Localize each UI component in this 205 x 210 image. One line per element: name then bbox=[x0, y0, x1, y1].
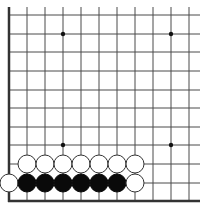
white-stone[interactable] bbox=[108, 155, 126, 173]
white-stone[interactable] bbox=[90, 155, 108, 173]
white-stone[interactable] bbox=[126, 174, 144, 192]
white-stone[interactable] bbox=[126, 155, 144, 173]
stones[interactable] bbox=[0, 155, 144, 192]
white-stone[interactable] bbox=[36, 155, 54, 173]
white-stone[interactable] bbox=[18, 155, 36, 173]
grid-lines bbox=[8, 7, 200, 202]
black-stone[interactable] bbox=[108, 174, 126, 192]
black-stone[interactable] bbox=[72, 174, 90, 192]
black-stone[interactable] bbox=[90, 174, 108, 192]
star-point-icon bbox=[169, 32, 173, 36]
star-point-icon bbox=[169, 143, 173, 147]
white-stone[interactable] bbox=[0, 174, 18, 192]
white-stone[interactable] bbox=[72, 155, 90, 173]
black-stone[interactable] bbox=[54, 174, 72, 192]
black-stone[interactable] bbox=[36, 174, 54, 192]
star-point-icon bbox=[61, 143, 65, 147]
go-board[interactable] bbox=[0, 0, 205, 210]
white-stone[interactable] bbox=[54, 155, 72, 173]
black-stone[interactable] bbox=[18, 174, 36, 192]
star-point-icon bbox=[61, 32, 65, 36]
